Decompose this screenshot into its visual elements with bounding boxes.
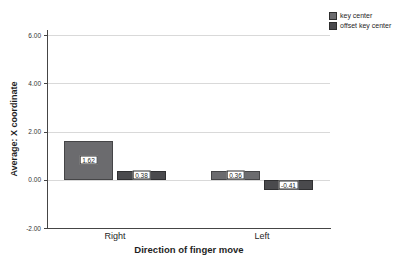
legend-label: offset key center: [340, 22, 391, 30]
bar-chart: Average: X coordinate Direction of finge…: [0, 0, 411, 271]
gridline: [47, 132, 330, 133]
x-axis-line: [47, 228, 331, 229]
value-label-left-offset-key-center: -0.41: [278, 180, 299, 189]
legend: key centeroffset key center: [329, 12, 391, 32]
gridline: [47, 83, 330, 84]
legend-swatch-key-center: [329, 12, 337, 20]
value-label-left-key-center: 0.36: [226, 171, 245, 180]
legend-swatch-offset-key-center: [329, 22, 337, 30]
y-axis-line: [47, 30, 48, 228]
y-tick-label: 2.00: [15, 128, 41, 135]
value-label-right-key-center: 1.62: [79, 156, 98, 165]
y-tick-label: 6.00: [15, 32, 41, 39]
legend-label: key center: [340, 12, 372, 20]
y-tick-label: -2.00: [15, 225, 41, 232]
value-label-right-offset-key-center: 0.38: [132, 171, 151, 180]
y-tick-label: 4.00: [15, 80, 41, 87]
x-axis-title: Direction of finger move: [134, 244, 243, 255]
legend-item-key-center: key center: [329, 12, 391, 20]
y-tick-label: 0.00: [15, 176, 41, 183]
category-label-left: Left: [222, 231, 302, 241]
category-label-right: Right: [75, 231, 155, 241]
gridline: [47, 35, 330, 36]
legend-item-offset-key-center: offset key center: [329, 22, 391, 30]
